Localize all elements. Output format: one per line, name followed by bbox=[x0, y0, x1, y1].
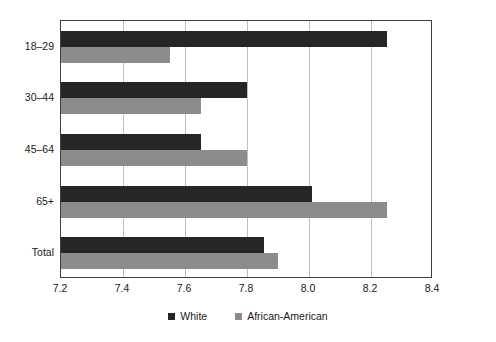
x-axis-tick-7.6: 7.6 bbox=[177, 282, 192, 294]
legend-swatch-icon bbox=[235, 313, 242, 320]
bar-african-american bbox=[61, 98, 201, 114]
bar-white bbox=[61, 82, 247, 98]
bar-african-american bbox=[61, 253, 278, 269]
x-axis-tick-7.2: 7.2 bbox=[53, 282, 68, 294]
legend-item-white[interactable]: White bbox=[168, 310, 207, 322]
bar-white bbox=[61, 134, 201, 150]
x-axis-tick-labels: 7.27.47.67.88.08.28.4 bbox=[60, 282, 432, 298]
legend-swatch-icon bbox=[168, 313, 175, 320]
x-axis-tick-7.8: 7.8 bbox=[239, 282, 254, 294]
plot-area bbox=[60, 20, 432, 278]
y-axis-label-1: 30–44 bbox=[0, 91, 54, 103]
bar-white bbox=[61, 31, 387, 47]
bar-group bbox=[61, 82, 431, 114]
bar-white bbox=[61, 186, 312, 202]
legend-label: African-American bbox=[247, 310, 328, 322]
x-axis-tick-8.0: 8.0 bbox=[301, 282, 316, 294]
bar-african-american bbox=[61, 47, 170, 63]
y-axis-label-2: 45–64 bbox=[0, 143, 54, 155]
bar-group bbox=[61, 237, 431, 269]
x-axis-tick-7.4: 7.4 bbox=[115, 282, 130, 294]
y-axis-label-0: 18–29 bbox=[0, 40, 54, 52]
bar-african-american bbox=[61, 150, 247, 166]
gridline-8.4 bbox=[433, 21, 434, 277]
bar-group bbox=[61, 186, 431, 218]
bars-layer bbox=[61, 21, 431, 277]
legend-item-african-american[interactable]: African-American bbox=[235, 310, 328, 322]
chart-legend: WhiteAfrican-American bbox=[0, 310, 496, 322]
y-axis-category-labels: 18–2930–4445–6465+Total bbox=[0, 20, 54, 278]
x-axis-tick-8.4: 8.4 bbox=[425, 282, 440, 294]
bar-chart: 18–2930–4445–6465+Total 7.27.47.67.88.08… bbox=[0, 0, 496, 342]
y-axis-label-3: 65+ bbox=[0, 195, 54, 207]
y-axis-label-4: Total bbox=[0, 246, 54, 258]
bar-african-american bbox=[61, 202, 387, 218]
legend-label: White bbox=[180, 310, 207, 322]
bar-white bbox=[61, 237, 264, 253]
bar-group bbox=[61, 134, 431, 166]
bar-group bbox=[61, 31, 431, 63]
x-axis-tick-8.2: 8.2 bbox=[363, 282, 378, 294]
